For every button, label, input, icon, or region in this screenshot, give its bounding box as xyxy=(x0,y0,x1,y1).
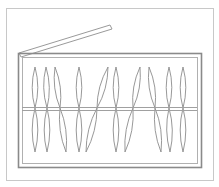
box-with-spindles-diagram xyxy=(0,0,219,187)
spindle-10-lower-lobe xyxy=(180,108,186,152)
spindle-7-lower-lobe xyxy=(125,108,133,152)
spindle-5-lower-lobe xyxy=(86,108,97,152)
spindle-8-lower-lobe xyxy=(154,108,161,152)
spindle-6-upper-lobe xyxy=(113,67,119,108)
spindle-8-upper-lobe xyxy=(148,67,155,108)
spindle-5-upper-lobe xyxy=(97,67,108,108)
spindle-1-upper-lobe xyxy=(32,67,38,108)
spindle-3-lower-lobe xyxy=(59,108,66,152)
spindle-group xyxy=(32,67,186,152)
spindle-2-upper-lobe xyxy=(44,67,50,108)
open-lid xyxy=(19,25,112,57)
spindle-10-upper-lobe xyxy=(180,67,186,108)
spindle-2-lower-lobe xyxy=(44,108,50,152)
spindle-6-lower-lobe xyxy=(113,108,119,152)
spindle-9-upper-lobe xyxy=(166,67,172,108)
spindle-4-lower-lobe xyxy=(76,108,82,152)
spindle-4-upper-lobe xyxy=(76,67,82,108)
spindle-1-lower-lobe xyxy=(32,108,38,152)
spindle-7-upper-lobe xyxy=(133,67,141,108)
spindle-3-upper-lobe xyxy=(54,67,61,108)
spindle-9-lower-lobe xyxy=(167,108,173,152)
diagram-canvas xyxy=(0,0,219,187)
